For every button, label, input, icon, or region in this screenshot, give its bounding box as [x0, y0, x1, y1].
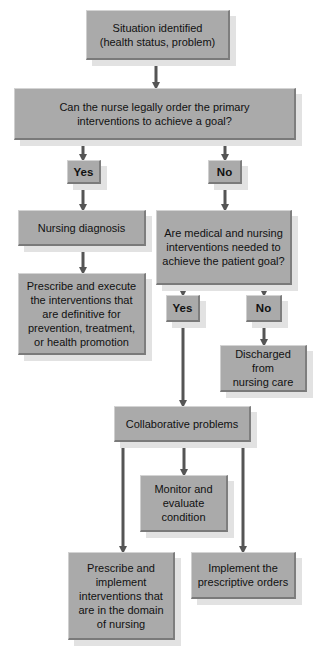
node-label: Yes — [173, 301, 193, 315]
node-situation-identified: Situation identified (health status, pro… — [86, 10, 230, 60]
node-label: Discharged from nursing care — [225, 347, 301, 389]
node-nursing-diagnosis: Nursing diagnosis — [18, 210, 146, 246]
node-prescribe-implement: Prescribe and implement interventions th… — [68, 552, 175, 640]
node-legal-question: Can the nurse legally order the primary … — [14, 88, 296, 140]
node-no-legal: No — [208, 160, 242, 184]
node-label: Prescribe and execute the interventions … — [27, 279, 136, 349]
node-label: Monitor and evaluate condition — [154, 482, 212, 524]
node-label: Are medical and nursing interventions ne… — [162, 226, 284, 268]
node-prescribe-execute: Prescribe and execute the interventions … — [18, 273, 146, 355]
node-label: Situation identified (health status, pro… — [100, 21, 216, 49]
node-yes-legal: Yes — [67, 160, 101, 184]
node-monitor-evaluate: Monitor and evaluate condition — [140, 475, 228, 532]
node-discharged: Discharged from nursing care — [220, 345, 307, 392]
node-label: Implement the prescriptive orders — [198, 561, 288, 589]
node-implement-orders: Implement the prescriptive orders — [191, 552, 296, 599]
node-label: No — [217, 165, 232, 179]
node-label: Yes — [74, 165, 94, 179]
node-label: Prescribe and implement interventions th… — [79, 561, 164, 631]
node-yes-medical: Yes — [166, 295, 200, 322]
node-label: Can the nurse legally order the primary … — [59, 100, 249, 128]
node-label: Nursing diagnosis — [38, 221, 125, 235]
node-no-medical: No — [246, 295, 282, 322]
node-label: No — [256, 301, 271, 315]
node-collaborative-problems: Collaborative problems — [114, 406, 251, 442]
node-medical-question: Are medical and nursing interventions ne… — [156, 210, 292, 285]
node-label: Collaborative problems — [126, 417, 239, 431]
